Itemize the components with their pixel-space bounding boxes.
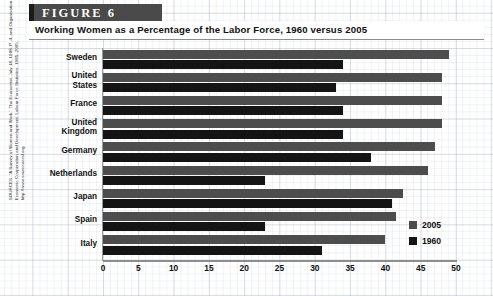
category-label-line: United <box>30 118 97 128</box>
x-axis-tick-label: 0 <box>101 263 106 273</box>
source-note: SOURCES: "A Survey of Women and Work," T… <box>8 0 27 200</box>
legend-item: 1960 <box>409 234 441 247</box>
bar-1960 <box>103 130 343 139</box>
bar-1960 <box>103 83 336 92</box>
category-label-line: Spain <box>30 215 97 225</box>
bar-2005 <box>103 142 435 151</box>
figure-title-bar: Working Women as a Percentage of the Lab… <box>29 21 484 40</box>
x-axis-tick-label: 50 <box>451 263 460 273</box>
x-axis-tick-label: 10 <box>169 263 178 273</box>
x-axis-tick-label: 5 <box>136 263 141 273</box>
category-label: Netherlands <box>30 169 97 179</box>
legend-item: 2005 <box>409 218 441 231</box>
x-axis-tick-label: 15 <box>204 263 213 273</box>
bar-2005 <box>103 166 428 175</box>
bar-1960 <box>103 199 392 208</box>
category-label-line: Kingdom <box>30 127 97 137</box>
bar-1960 <box>103 153 371 162</box>
x-axis-tick-label: 35 <box>345 263 354 273</box>
category-label-line: Italy <box>30 239 97 249</box>
category-label: UnitedStates <box>30 71 97 90</box>
category-label: Italy <box>30 239 97 249</box>
x-axis-tick-label: 30 <box>310 263 319 273</box>
category-label-line: Japan <box>30 192 97 202</box>
bar-2005 <box>103 235 385 244</box>
figure-number-label: FIGURE 6 <box>42 6 116 21</box>
x-axis-tick-label: 25 <box>275 263 284 273</box>
page-title: Working Women as a Percentage of the Lab… <box>35 24 367 35</box>
category-label-line: Germany <box>30 146 97 156</box>
x-axis-line <box>103 260 457 262</box>
bar-2005 <box>103 189 403 198</box>
legend-swatch-icon <box>409 237 417 245</box>
x-axis-tick-label: 20 <box>240 263 249 273</box>
legend-swatch-icon <box>409 221 417 229</box>
category-label-line: United <box>30 71 97 81</box>
plot-area <box>103 48 456 260</box>
bar-2005 <box>103 119 442 128</box>
y-axis-line <box>102 48 103 261</box>
bar-2005 <box>103 50 449 59</box>
banner-left-accent <box>29 4 34 21</box>
category-label: France <box>30 99 97 109</box>
category-label: Sweden <box>30 53 97 63</box>
category-label-line: Sweden <box>30 53 97 63</box>
x-axis-tick-label: 40 <box>381 263 390 273</box>
bar-1960 <box>103 246 322 255</box>
bar-1960 <box>103 222 265 231</box>
category-label-line: States <box>30 81 97 91</box>
x-axis-tick-label: 45 <box>416 263 425 273</box>
bar-2005 <box>103 73 442 82</box>
category-label-line: Netherlands <box>30 169 97 179</box>
figure-number-banner: FIGURE 6 <box>29 4 162 21</box>
bar-1960 <box>103 176 265 185</box>
category-label: UnitedKingdom <box>30 118 97 137</box>
category-label: Spain <box>30 215 97 225</box>
legend-label: 2005 <box>422 220 441 230</box>
bar-1960 <box>103 106 343 115</box>
legend-label: 1960 <box>422 236 441 246</box>
category-label: Japan <box>30 192 97 202</box>
chart-legend: 20051960 <box>409 218 441 250</box>
category-label: Germany <box>30 146 97 156</box>
bar-2005 <box>103 212 396 221</box>
bar-1960 <box>103 60 343 69</box>
category-label-line: France <box>30 99 97 109</box>
bar-2005 <box>103 96 442 105</box>
